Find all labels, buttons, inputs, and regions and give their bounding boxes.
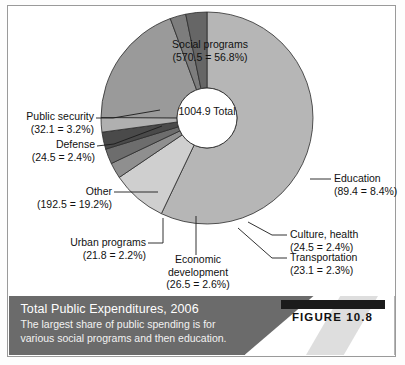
caption-line-2: various social programs and then educati… <box>21 331 227 345</box>
slice-label-culture-health-name: Culture, health <box>290 228 400 241</box>
slice-label-social-programs-amount: (570.5 = 56.8%) <box>150 51 270 64</box>
caption-text-block: Total Public Expenditures, 2006 The larg… <box>21 301 227 345</box>
slice-label-urban-programs-amount: (21.8 = 2.2%) <box>30 249 146 262</box>
slice-label-culture-health: Culture, health (24.5 = 2.4%) <box>290 228 400 253</box>
center-total-label: 1004.9 Total <box>172 105 242 118</box>
caption-title: Total Public Expenditures, 2006 <box>21 301 227 317</box>
slice-label-economic-development-amount: (26.5 = 2.6%) <box>148 278 248 291</box>
slice-label-education-name: Education <box>334 172 404 185</box>
caption-band: Total Public Expenditures, 2006 The larg… <box>9 296 395 355</box>
slice-label-social-programs: Social programs (570.5 = 56.8%) <box>150 38 270 63</box>
caption-line-1: The largest share of public spending is … <box>21 317 227 331</box>
donut-hole <box>177 88 237 148</box>
slice-label-defense-amount: (24.5 = 2.4%) <box>0 151 95 164</box>
leader-line-culture-health-2 <box>248 222 272 235</box>
slice-label-economic-development-name: Economic <box>148 253 248 266</box>
slice-label-other-name: Other <box>0 185 112 198</box>
slice-label-other: Other (192.5 = 19.2%) <box>0 185 112 210</box>
pie-chart-area: Social programs (570.5 = 56.8%) 1004.9 T… <box>0 0 405 294</box>
center-total-text: Total <box>213 105 235 117</box>
slice-label-education-amount: (89.4 = 8.4%) <box>334 185 404 198</box>
slice-label-transportation-amount: (23.1 = 2.3%) <box>290 264 402 277</box>
figure-badge-label: FIGURE 10.8 <box>277 311 389 323</box>
slice-label-education: Education (89.4 = 8.4%) <box>334 172 404 197</box>
slice-label-public-security-name: Public security <box>0 110 94 123</box>
slice-label-urban-programs-name: Urban programs <box>30 236 146 249</box>
slice-label-defense: Defense (24.5 = 2.4%) <box>0 138 95 163</box>
slice-label-public-security: Public security (32.1 = 3.2%) <box>0 110 94 135</box>
figure-container: Social programs (570.5 = 56.8%) 1004.9 T… <box>0 0 405 365</box>
slice-label-transportation: Transportation (23.1 = 2.3%) <box>290 251 402 276</box>
figure-badge: FIGURE 10.8 <box>277 300 389 323</box>
center-total-value: 1004.9 <box>178 105 210 117</box>
slice-label-urban-programs: Urban programs (21.8 = 2.2%) <box>30 236 146 261</box>
slice-label-economic-development: Economic development (26.5 = 2.6%) <box>148 253 248 291</box>
slice-label-defense-name: Defense <box>0 138 95 151</box>
slice-label-culture-health-amount: (24.5 = 2.4%) <box>290 241 400 254</box>
figure-badge-bar <box>281 300 385 309</box>
slice-label-other-amount: (192.5 = 19.2%) <box>0 198 112 211</box>
slice-label-public-security-amount: (32.1 = 3.2%) <box>0 123 94 136</box>
slice-label-economic-development-name2: development <box>148 266 248 279</box>
slice-label-social-programs-name: Social programs <box>150 38 270 51</box>
